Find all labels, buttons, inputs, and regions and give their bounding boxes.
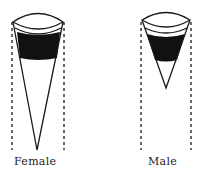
cone-diagram (0, 0, 197, 177)
female-cone-rim (13, 14, 63, 30)
female-dark-band (17, 32, 60, 60)
female-label: Female (14, 155, 56, 168)
male-dark-band (147, 34, 185, 62)
male-cone-rim-lower (145, 28, 187, 33)
male-cone-rim (142, 13, 190, 28)
male-label: Male (148, 155, 177, 168)
female-cone (12, 14, 64, 151)
male-cone (141, 13, 191, 151)
